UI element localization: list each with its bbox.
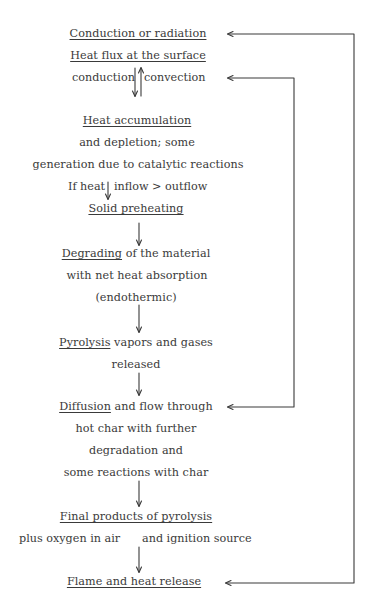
down-arrow-icon [137,223,142,246]
pyrolysis-flow-diagram: Conduction or radiation Heat flux at the… [0,0,372,611]
down-arrow-icon [137,481,142,507]
double-arrow-icon [133,68,144,97]
feedback-loop-outer [226,32,355,586]
feedback-loop-inner [228,76,295,410]
down-arrow-icon [137,373,142,396]
down-arrow-icon [137,305,142,333]
arrows-layer [0,0,372,611]
down-arrow-icon [137,547,142,573]
down-arrow-icon [106,182,111,200]
